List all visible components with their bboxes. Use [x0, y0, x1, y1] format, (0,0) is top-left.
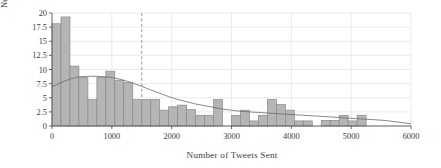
histogram-bar — [339, 115, 348, 126]
histogram-bar — [348, 121, 357, 126]
histogram-bar — [205, 115, 214, 126]
histogram-bar — [178, 105, 187, 126]
x-tick-label: 4000 — [283, 132, 300, 141]
y-axis-ticks: 02.557.51012.51517.520 — [32, 9, 52, 131]
histogram-bar — [321, 120, 330, 126]
histogram-bar — [61, 17, 70, 126]
x-tick-label: 1000 — [103, 132, 120, 141]
histogram-bar — [142, 99, 151, 126]
y-tick-label: 12.5 — [32, 51, 47, 60]
histogram-bar — [169, 107, 178, 126]
histogram-bar — [303, 121, 312, 126]
x-tick-label: 3000 — [223, 132, 240, 141]
histogram-bar — [294, 121, 303, 126]
x-axis-title: Number of Tweets Sent — [52, 150, 412, 160]
y-tick-label: 15 — [39, 37, 47, 46]
histogram-bar — [187, 110, 196, 126]
y-tick-label: 2.5 — [37, 108, 47, 117]
y-tick-label: 17.5 — [32, 23, 47, 32]
histogram-bar — [160, 110, 169, 126]
plot-area: 02.557.51012.51517.520010002000300040005… — [0, 0, 441, 168]
x-axis-ticks: 0100020003000400050006000 — [50, 126, 419, 141]
histogram-bar — [330, 120, 339, 126]
histogram-bar — [232, 115, 241, 126]
histogram-bar — [106, 71, 115, 126]
histogram-bar — [285, 110, 294, 126]
histogram-bar — [70, 66, 79, 126]
y-tick-label: 7.5 — [37, 80, 47, 89]
x-tick-label: 6000 — [403, 132, 420, 141]
histogram-bar — [79, 77, 88, 126]
y-tick-label: 10 — [39, 66, 47, 75]
x-tick-label: 0 — [50, 132, 54, 141]
y-tick-label: 20 — [39, 9, 47, 18]
histogram-bar — [97, 77, 106, 126]
y-axis-title: Number of Organizations — [0, 0, 13, 28]
x-tick-label: 5000 — [343, 132, 360, 141]
y-tick-label: 0 — [43, 122, 47, 131]
chart-canvas: 02.557.51012.51517.520010002000300040005… — [0, 0, 441, 168]
histogram-bar — [258, 115, 267, 126]
histogram-bar — [52, 24, 61, 126]
y-tick-label: 5 — [43, 94, 47, 103]
histogram-bar — [115, 80, 124, 126]
histogram-bar — [240, 110, 249, 126]
x-tick-label: 2000 — [163, 132, 180, 141]
histogram-bar — [357, 115, 366, 126]
histogram-bar — [133, 99, 142, 126]
histogram-bar — [196, 115, 205, 126]
histogram-chart: 02.557.51012.51517.520010002000300040005… — [0, 0, 441, 168]
histogram-bar — [249, 121, 258, 126]
histogram-bar — [276, 105, 285, 126]
histogram-bar — [151, 99, 160, 126]
histogram-bar — [124, 83, 133, 127]
histogram-bar — [214, 99, 223, 126]
histogram-bar — [88, 99, 97, 126]
